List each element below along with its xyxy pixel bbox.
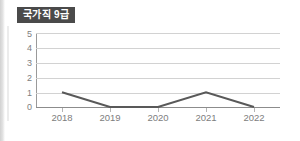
gridline-4 (36, 48, 280, 49)
x-tick-label-2018: 2018 (42, 113, 82, 123)
x-tick-label-2020: 2020 (138, 113, 178, 123)
line-chart: 5 4 3 2 1 0 2018 2019 2020 2021 2022 (0, 0, 300, 141)
gridline-5 (36, 33, 280, 34)
x-tick-label-2019: 2019 (90, 113, 130, 123)
y-tick-label-0: 0 (16, 103, 32, 112)
y-axis-labels: 5 4 3 2 1 0 (14, 0, 32, 141)
x-tick-label-2022: 2022 (234, 113, 274, 123)
y-tick-label-5: 5 (16, 30, 32, 39)
y-tick-label-3: 3 (16, 59, 32, 68)
chart-page: 국가직 9급 5 4 3 2 1 0 2018 2019 2020 2021 2… (0, 0, 300, 141)
y-tick-label-4: 4 (16, 44, 32, 53)
plot-area (36, 33, 280, 107)
gridline-2 (36, 78, 280, 79)
x-tick-label-2021: 2021 (186, 113, 226, 123)
y-tick-label-1: 1 (16, 89, 32, 98)
gridline-1 (36, 93, 280, 94)
gridline-3 (36, 63, 280, 64)
y-tick-label-2: 2 (16, 74, 32, 83)
